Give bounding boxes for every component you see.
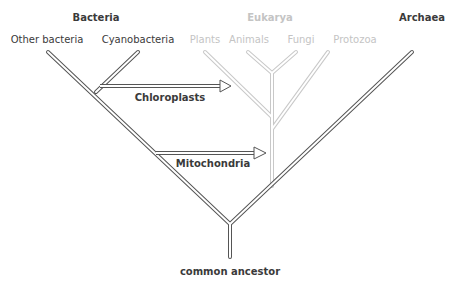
- leaf-label-fungi: Fungi: [287, 34, 314, 46]
- leaf-label-animals: Animals: [229, 34, 269, 46]
- domain-label-bacteria: Bacteria: [73, 12, 120, 24]
- domain-label-eukarya: Eukarya: [247, 12, 293, 24]
- leaf-label-other-bacteria: Other bacteria: [11, 34, 84, 46]
- chloroplasts-arrow: [100, 80, 231, 92]
- leaf-label-plants: Plants: [190, 34, 220, 46]
- domain-label-archaea: Archaea: [399, 12, 445, 24]
- tree-of-life-diagram: Bacteria Eukarya Archaea Other bacteria …: [0, 0, 460, 285]
- transfer-label-chloroplasts: Chloroplasts: [135, 92, 206, 104]
- root-label-common-ancestor: common ancestor: [180, 266, 280, 278]
- transfer-label-mitochondria: Mitochondria: [176, 158, 250, 170]
- leaf-label-cyanobacteria: Cyanobacteria: [102, 34, 175, 46]
- leaf-label-protozoa: Protozoa: [333, 34, 376, 46]
